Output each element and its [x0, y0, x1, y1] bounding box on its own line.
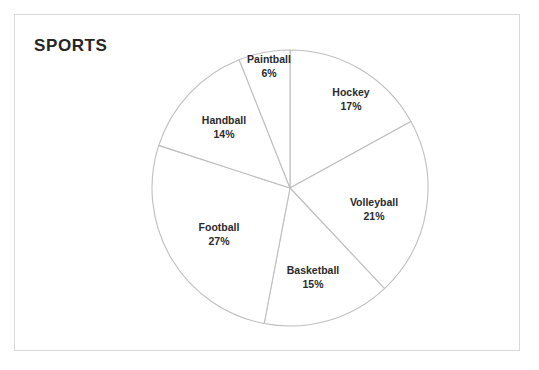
pie-label-value: 6%: [247, 66, 291, 80]
pie-label-value: 15%: [287, 277, 340, 291]
pie-label-football: Football27%: [199, 220, 240, 248]
pie-label-value: 27%: [199, 234, 240, 248]
pie-label-basketball: Basketball15%: [287, 263, 340, 291]
pie-label-name: Basketball: [287, 263, 340, 277]
pie-label-hockey: Hockey17%: [332, 85, 369, 113]
pie-label-value: 17%: [332, 99, 369, 113]
page-title: SPORTS: [34, 36, 108, 56]
pie-label-paintball: Paintball6%: [247, 52, 291, 80]
pie-label-name: Volleyball: [350, 195, 398, 209]
pie-label-name: Football: [199, 220, 240, 234]
pie-label-value: 14%: [202, 127, 246, 141]
page-root: SPORTS Hockey17%Volleyball21%Basketball1…: [0, 0, 539, 370]
pie-label-value: 21%: [350, 209, 398, 223]
pie-label-name: Handball: [202, 113, 246, 127]
pie-label-name: Paintball: [247, 52, 291, 66]
pie-label-volleyball: Volleyball21%: [350, 195, 398, 223]
pie-label-name: Hockey: [332, 85, 369, 99]
pie-label-handball: Handball14%: [202, 113, 246, 141]
